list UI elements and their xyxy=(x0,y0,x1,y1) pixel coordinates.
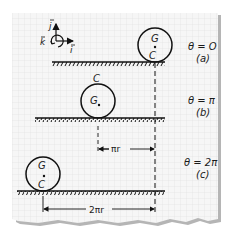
dimension-pi-r-label: πr xyxy=(111,144,120,154)
disk-a-top-label: G xyxy=(151,33,159,44)
center-dot xyxy=(98,104,100,106)
disk-b-top-label: C xyxy=(93,73,100,84)
center-dot xyxy=(43,175,45,177)
rolling-disk-diagram: j i k G C C G G C xyxy=(0,0,227,230)
disk-b-center-label: G xyxy=(90,95,98,106)
dimension-2pi-r-label: 2πr xyxy=(89,205,104,215)
case-b-label: (b) xyxy=(196,107,210,118)
case-c-label: (c) xyxy=(196,169,209,180)
theta-a-label: θ = O xyxy=(188,41,217,52)
theta-c-label: θ = 2π xyxy=(184,157,218,168)
ground-c xyxy=(17,191,165,195)
disk-a-bottom-label: C xyxy=(149,50,156,61)
diagram-canvas: j i k G C C G G C xyxy=(0,0,227,230)
center-dot xyxy=(154,46,156,48)
theta-b-label: θ = π xyxy=(188,95,216,106)
disk-c-bottom-label: C xyxy=(38,179,45,190)
disk-c-top-label: G xyxy=(38,160,46,171)
case-a-label: (a) xyxy=(196,53,210,64)
ground-a xyxy=(52,62,165,66)
k-unit-label: k xyxy=(40,37,46,47)
